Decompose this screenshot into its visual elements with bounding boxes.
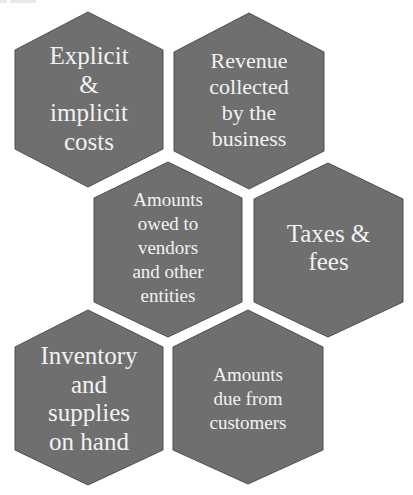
hexagon-label-line: costs bbox=[64, 128, 114, 157]
hexagon-inventory-supplies: Inventory and supplies on hand bbox=[15, 340, 163, 458]
hexagon-label-line: Inventory bbox=[40, 342, 137, 371]
hexagon-label-line: supplies bbox=[48, 399, 130, 428]
hexagon-label-line: and other bbox=[132, 260, 203, 284]
hexagon-revenue-collected: Revenue collected by the business bbox=[174, 48, 324, 152]
hexagon-label-line: & bbox=[79, 71, 98, 100]
hexagon-label-line: by the bbox=[222, 100, 276, 126]
hexagon-label-line: owed to bbox=[138, 212, 199, 236]
hexagon-label-line: business bbox=[212, 126, 287, 152]
hexagon-label-line: fees bbox=[308, 248, 348, 277]
hexagon-label-line: due from bbox=[213, 387, 282, 411]
hexagon-label-line: entities bbox=[141, 284, 196, 308]
hexagon-label-line: Taxes & bbox=[287, 220, 371, 249]
hexagon-label-line: on hand bbox=[49, 428, 129, 457]
hexagon-label-line: customers bbox=[209, 411, 286, 435]
hexagon-label-line: and bbox=[71, 371, 107, 400]
hexagon-label-line: vendors bbox=[138, 236, 198, 260]
hexagon-explicit-implicit-costs: Explicit & implicit costs bbox=[15, 40, 163, 158]
hexagon-label-line: Amounts bbox=[213, 363, 283, 387]
hexagon-label-line: implicit bbox=[50, 99, 128, 128]
hexagon-amounts-due: Amounts due from customers bbox=[173, 362, 323, 436]
hexagon-label-line: collected bbox=[209, 74, 288, 100]
hexagon-label-line: Explicit bbox=[49, 42, 128, 71]
hexagon-label-line: Revenue bbox=[211, 48, 288, 74]
hexagon-taxes-fees: Taxes & fees bbox=[254, 218, 403, 278]
hexagon-amounts-owed: Amounts owed to vendors and other entiti… bbox=[94, 188, 242, 308]
hexagon-label-line: Amounts bbox=[133, 188, 203, 212]
